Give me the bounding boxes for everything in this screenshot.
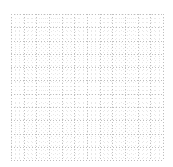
grid-major-vline	[11, 14, 12, 160]
grid-minor-vline	[146, 14, 147, 160]
grid-major-hline	[11, 120, 163, 121]
grid-minor-vline	[125, 14, 126, 160]
grid-minor-vline	[24, 14, 25, 160]
grid-major-vline	[112, 14, 113, 160]
grid-minor-vline	[95, 14, 96, 160]
grid-minor-hline	[11, 107, 163, 108]
grid-minor-vline	[100, 14, 101, 160]
grid-minor-hline	[11, 149, 163, 150]
grid-minor-hline	[11, 31, 163, 32]
grid-minor-vline	[87, 14, 88, 160]
grid-minor-vline	[121, 14, 122, 160]
grid-minor-hline	[11, 65, 163, 66]
grid-minor-vline	[19, 14, 20, 160]
grid-minor-vline	[150, 14, 151, 160]
grid-major-hline	[11, 80, 163, 81]
grid-minor-hline	[11, 145, 163, 146]
grid-minor-vline	[116, 14, 117, 160]
grid-minor-vline	[45, 14, 46, 160]
grid-major-vline	[24, 14, 25, 160]
grid-minor-vline	[36, 14, 37, 160]
grid-minor-vline	[66, 14, 67, 160]
grid-minor-vline	[163, 14, 164, 160]
grid-minor-vline	[91, 14, 92, 160]
grid-minor-vline	[62, 14, 63, 160]
grid-minor-vline	[15, 14, 16, 160]
grid-minor-hline	[11, 141, 163, 142]
grid-major-hline	[11, 107, 163, 108]
grid-major-vline	[87, 14, 88, 160]
grid-major-hline	[11, 14, 163, 15]
grid-major-hline	[11, 160, 163, 161]
grid-minor-hline	[11, 132, 163, 133]
grid-minor-vline	[32, 14, 33, 160]
grid-minor-hline	[11, 98, 163, 99]
grid-minor-hline	[11, 73, 163, 74]
grid-minor-vline	[104, 14, 105, 160]
grid-minor-vline	[129, 14, 130, 160]
grid-minor-hline	[11, 60, 163, 61]
grid-minor-vline	[11, 14, 12, 160]
grid-major-vline	[62, 14, 63, 160]
grid-minor-vline	[83, 14, 84, 160]
grid-minor-hline	[11, 22, 163, 23]
grid-minor-hline	[11, 153, 163, 154]
grid-major-vline	[150, 14, 151, 160]
grid-minor-hline	[11, 86, 163, 87]
grid-major-vline	[74, 14, 75, 160]
grid-minor-hline	[11, 35, 163, 36]
grid-minor-hline	[11, 115, 163, 116]
grid-minor-hline	[11, 111, 163, 112]
grid-minor-vline	[57, 14, 58, 160]
grid-minor-vline	[142, 14, 143, 160]
grid-minor-hline	[11, 44, 163, 45]
grid-minor-hline	[11, 103, 163, 104]
grid-minor-vline	[49, 14, 50, 160]
grid-minor-hline	[11, 18, 163, 19]
grid-minor-vline	[74, 14, 75, 160]
grid-minor-vline	[53, 14, 54, 160]
grid-minor-vline	[28, 14, 29, 160]
grid-minor-vline	[133, 14, 134, 160]
dotted-grid-area[interactable]	[11, 14, 163, 160]
grid-minor-hline	[11, 14, 163, 15]
grid-canvas-root	[0, 0, 173, 167]
grid-minor-hline	[11, 77, 163, 78]
grid-minor-hline	[11, 157, 163, 158]
grid-minor-hline	[11, 52, 163, 53]
grid-minor-vline	[78, 14, 79, 160]
grid-minor-hline	[11, 69, 163, 70]
grid-minor-hline	[11, 39, 163, 40]
grid-minor-vline	[70, 14, 71, 160]
grid-minor-hline	[11, 94, 163, 95]
grid-major-vline	[138, 14, 139, 160]
grid-minor-hline	[11, 119, 163, 120]
grid-major-hline	[11, 147, 163, 148]
grid-minor-hline	[11, 128, 163, 129]
grid-minor-hline	[11, 56, 163, 57]
grid-major-hline	[11, 27, 163, 28]
grid-minor-hline	[11, 90, 163, 91]
grid-major-vline	[125, 14, 126, 160]
grid-major-hline	[11, 134, 163, 135]
grid-minor-hline	[11, 136, 163, 137]
grid-minor-vline	[108, 14, 109, 160]
grid-major-vline	[163, 14, 164, 160]
grid-major-vline	[100, 14, 101, 160]
grid-minor-vline	[138, 14, 139, 160]
grid-major-hline	[11, 67, 163, 68]
grid-minor-hline	[11, 48, 163, 49]
grid-major-hline	[11, 54, 163, 55]
grid-minor-hline	[11, 124, 163, 125]
grid-minor-hline	[11, 81, 163, 82]
grid-major-hline	[11, 94, 163, 95]
grid-minor-vline	[154, 14, 155, 160]
grid-minor-hline	[11, 27, 163, 28]
grid-major-vline	[49, 14, 50, 160]
grid-minor-vline	[159, 14, 160, 160]
grid-major-hline	[11, 41, 163, 42]
grid-minor-vline	[112, 14, 113, 160]
grid-major-vline	[36, 14, 37, 160]
grid-minor-vline	[41, 14, 42, 160]
